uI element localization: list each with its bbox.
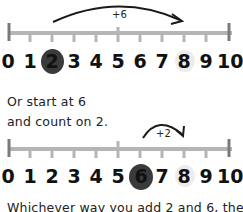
caption-line-1: Or start at 6 xyxy=(7,92,108,112)
tick-label-10: 10 xyxy=(217,165,243,187)
tick-label-3: 3 xyxy=(62,50,86,72)
footer-text: Whichever way you add 2 and 6, the xyxy=(7,198,243,212)
tick-label-9: 9 xyxy=(194,165,218,187)
arrow-head-icon xyxy=(176,126,184,136)
jump-label: +2 xyxy=(156,128,171,139)
tick-label-6: 6 xyxy=(128,50,152,72)
number-line-2: +2 0 1 2 3 4 5 6 7 8 9 10 xyxy=(0,120,243,192)
tick-label-0: 0 xyxy=(0,165,20,187)
tick-label-4: 4 xyxy=(84,50,108,72)
tick-label-7: 7 xyxy=(150,165,174,187)
tick-label-8: 8 xyxy=(172,165,196,187)
tick-label-5: 5 xyxy=(106,50,130,72)
tick-label-0: 0 xyxy=(0,50,20,72)
tick-label-10: 10 xyxy=(217,50,243,72)
tick-label-8: 8 xyxy=(172,50,196,72)
tick-label-4: 4 xyxy=(84,165,108,187)
tick-label-2: 2 xyxy=(40,165,64,187)
tick-label-3: 3 xyxy=(62,165,86,187)
tick-label-1: 1 xyxy=(18,50,42,72)
tick-label-5: 5 xyxy=(106,165,130,187)
tick-label-9: 9 xyxy=(194,50,218,72)
jump-label: +6 xyxy=(112,9,127,20)
tick-label-2: 2 xyxy=(40,50,64,72)
number-line-1: +6 0 1 2 3 4 5 6 7 8 9 10 xyxy=(0,0,243,80)
tick-label-1: 1 xyxy=(18,165,42,187)
tick-label-7: 7 xyxy=(150,50,174,72)
